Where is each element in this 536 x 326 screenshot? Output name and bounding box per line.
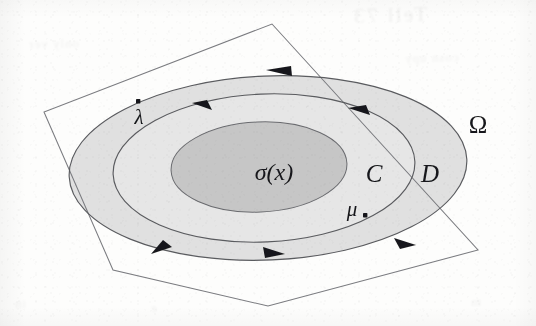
lambda-point-dot bbox=[136, 99, 140, 103]
label-mu: μ bbox=[346, 197, 358, 221]
label-lambda: λ bbox=[133, 105, 143, 129]
label-contour-c: C bbox=[366, 160, 383, 187]
arrowhead-d-top bbox=[266, 66, 292, 76]
arrowhead-d-bottom-right bbox=[394, 238, 416, 249]
label-omega: Ω bbox=[469, 111, 488, 138]
figure-container: λ μ σ(x) C D Ω Tell 73 only ver cosn upy… bbox=[0, 0, 536, 326]
mu-point-dot bbox=[363, 213, 367, 217]
label-contour-d: D bbox=[420, 160, 439, 187]
label-spectrum: σ(x) bbox=[255, 159, 293, 185]
nested-contour-diagram: λ μ σ(x) C D Ω bbox=[0, 0, 536, 326]
